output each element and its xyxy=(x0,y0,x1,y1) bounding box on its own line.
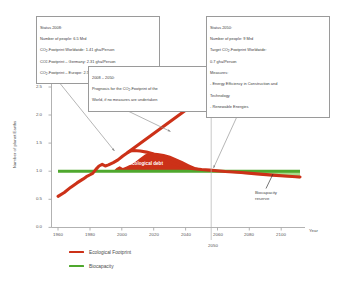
y-tick-label-1-0: 1.0 xyxy=(26,168,42,173)
callout-prognosis: 2008 – 2050: Prognosis for the CO2-Footp… xyxy=(88,66,208,112)
x-tick-label-2040: 2040 xyxy=(175,232,197,237)
x-tick-label-2020: 2020 xyxy=(143,232,165,237)
y-axis-title: Number of planet Earths xyxy=(12,110,17,180)
biocapacity-reserve-label: Biocapacity reserve xyxy=(255,190,277,202)
y-tick-label-2-0: 2.0 xyxy=(26,112,42,117)
legend-item-biocapacity: Biocapacity xyxy=(69,259,131,273)
x-tick-label-2100: 2100 xyxy=(270,232,292,237)
x-tick-label-2000: 2000 xyxy=(111,232,133,237)
callout-status-2050-line-5: Measures: xyxy=(210,70,326,76)
callout-status-2008-line-1: Status 2008: xyxy=(40,25,156,31)
legend-swatch-ecological-footprint xyxy=(69,251,84,254)
callout-status-2050-line-4: 0.7 gha/Person xyxy=(210,59,326,65)
legend-item-ecological-footprint: Ecological Footprint xyxy=(69,245,131,259)
y-tick-label-1-5: 1.5 xyxy=(26,140,42,145)
year-2050-marker-label: 2050 xyxy=(203,243,223,248)
callout-status-2050-line-7: Technology xyxy=(210,93,326,99)
x-tick-label-1960: 1960 xyxy=(47,232,69,237)
callout-status-2008-line-3: CO2-Footprint Worldwide: 1.41 gha/Person xyxy=(40,47,156,53)
callout-prognosis-line-1: 2008 – 2050: xyxy=(92,75,204,81)
callout-prognosis-line-3: World, if no measures are undertaken xyxy=(92,97,204,103)
y-tick-label-0-0: 0.0 xyxy=(26,224,42,229)
ecological-debt-label: Ecological debt xyxy=(129,161,163,166)
chart-legend: Ecological Footprint Biocapacity xyxy=(69,245,131,273)
x-axis-unit-label: Year xyxy=(309,228,318,233)
legend-label-biocapacity: Biocapacity xyxy=(89,264,114,269)
legend-label-ecological-footprint: Ecological Footprint xyxy=(89,250,131,255)
callout-status-2050-line-1: Status 2050: xyxy=(210,25,326,31)
y-tick-label-0-5: 0.5 xyxy=(26,196,42,201)
callout-status-2050: Status 2050: Number of people: 9 Mrd Tar… xyxy=(206,16,330,118)
callout-status-2008-line-2: Number of people: 6.5 Mrd xyxy=(40,36,156,42)
ecological-footprint-chart: Status 2008: Number of people: 6.5 Mrd C… xyxy=(0,0,340,283)
x-tick-label-2060: 2060 xyxy=(207,232,229,237)
x-tick-label-2080: 2080 xyxy=(238,232,260,237)
callout-status-2050-line-3: Target CO2-Footprint Worldwide: xyxy=(210,47,326,53)
legend-swatch-biocapacity xyxy=(69,265,84,268)
callout-status-2050-line-2: Number of people: 9 Mrd xyxy=(210,36,326,42)
x-tick-label-1980: 1980 xyxy=(79,232,101,237)
y-tick-label-2-5: 2.5 xyxy=(26,84,42,89)
callout-status-2050-line-8: - Renewable Energies xyxy=(210,104,326,110)
callout-prognosis-line-2: Prognosis for the CO2-Footprint of the xyxy=(92,86,204,92)
callout-status-2008-line-4: CO2-Footprint – Germany: 2.31 gha/Person xyxy=(40,59,156,65)
callout-status-2050-line-6: - Energy Efficiency in Construction and xyxy=(210,81,326,87)
